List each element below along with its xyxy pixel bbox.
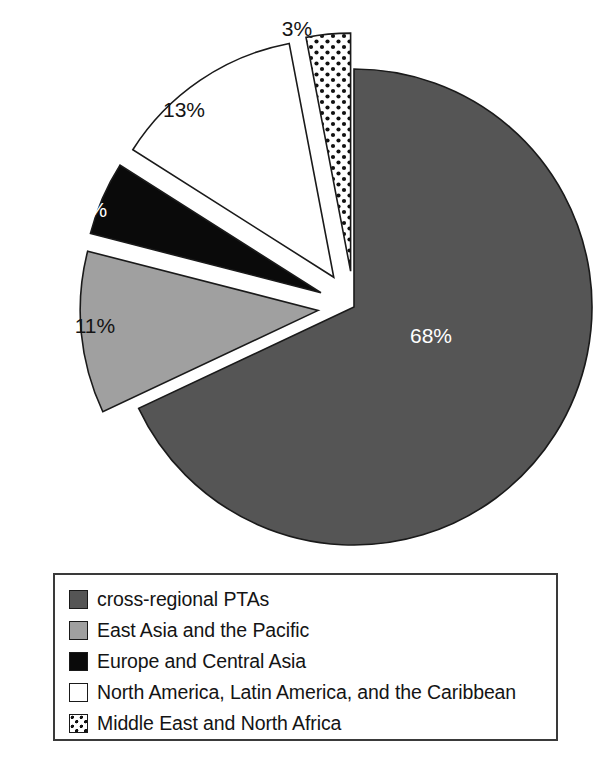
legend-label-middle-east-and-north-africa: Middle East and North Africa xyxy=(97,712,341,735)
legend-swatch-icon-cross-regional-ptas xyxy=(69,590,88,609)
legend-swatch-icon-north-america-latin-america-caribbean xyxy=(69,683,88,702)
pie-slice-value-label-5: 3% xyxy=(282,17,312,40)
legend-item-middle-east-and-north-africa[interactable]: Middle East and North Africa xyxy=(69,708,556,738)
pie-slices-group xyxy=(80,33,592,545)
pie-slice-value-label-4: 13% xyxy=(163,98,205,121)
pie-slice-value-label-3: 5% xyxy=(77,198,107,221)
chart-legend: cross-regional PTAs East Asia and the Pa… xyxy=(53,573,558,741)
legend-swatch-icon-east-asia-and-the-pacific xyxy=(69,621,88,640)
legend-item-north-america-latin-america-caribbean[interactable]: North America, Latin America, and the Ca… xyxy=(69,677,556,707)
legend-swatch-icon-middle-east-and-north-africa xyxy=(69,714,88,733)
legend-item-east-asia-and-the-pacific[interactable]: East Asia and the Pacific xyxy=(69,615,556,645)
legend-swatch-icon-europe-and-central-asia xyxy=(69,652,88,671)
pie-chart-svg: 68%11%5%13%3% xyxy=(0,0,597,570)
pie-slice-value-label-2: 11% xyxy=(75,314,115,337)
legend-label-east-asia-and-the-pacific: East Asia and the Pacific xyxy=(97,619,309,642)
legend-label-europe-and-central-asia: Europe and Central Asia xyxy=(97,650,306,673)
pie-chart-figure: 68%11%5%13%3% cross-regional PTAs East A… xyxy=(0,0,597,765)
legend-label-north-america-latin-america-caribbean: North America, Latin America, and the Ca… xyxy=(97,681,516,704)
legend-label-cross-regional-ptas: cross-regional PTAs xyxy=(97,588,269,611)
legend-item-cross-regional-ptas[interactable]: cross-regional PTAs xyxy=(69,584,556,614)
pie-slice-value-label-1: 68% xyxy=(410,324,452,347)
legend-item-europe-and-central-asia[interactable]: Europe and Central Asia xyxy=(69,646,556,676)
